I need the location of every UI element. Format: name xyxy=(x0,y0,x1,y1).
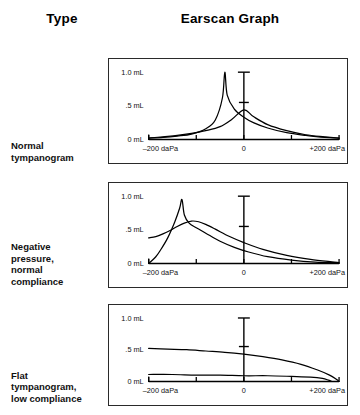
y-axis-tick-label: 0 mL xyxy=(127,135,143,144)
x-axis-tick-label: 0 xyxy=(242,144,246,153)
row-label-line: pressure, xyxy=(11,253,54,264)
row-label-line: tympanogram xyxy=(11,152,74,163)
tympanogram-row: Normaltympanogram 1.0 mL.5 mL0 mL–200 da… xyxy=(0,58,360,165)
y-axis-tick-label: 1.0 mL xyxy=(121,314,143,323)
column-header-graph: Earscan Graph xyxy=(140,11,320,26)
column-header-type: Type xyxy=(14,11,110,26)
x-axis-tick-label: –200 daPa xyxy=(143,268,179,277)
plot-area: 1.0 mL.5 mL0 mL–200 daPa0+200 daPa xyxy=(109,183,347,287)
normative-range-marker xyxy=(238,318,250,381)
tympanogram-curve xyxy=(149,374,332,381)
x-axis-tick-label: +200 daPa xyxy=(309,144,346,153)
graph-panel-normal: 1.0 mL.5 mL0 mL–200 daPa0+200 daPa xyxy=(108,58,348,164)
plot-area: 1.0 mL.5 mL0 mL–200 daPa0+200 daPa xyxy=(109,59,347,163)
graph-panel-flat: 1.0 mL.5 mL0 mL–200 daPa0+200 daPa xyxy=(108,304,348,406)
row-label-line: normal xyxy=(11,264,43,275)
y-axis-tick-label: 0 mL xyxy=(127,259,143,268)
y-axis-tick-label: .5 mL xyxy=(125,101,143,110)
plot-area: 1.0 mL.5 mL0 mL–200 daPa0+200 daPa xyxy=(109,305,347,405)
row-label-line: Normal xyxy=(11,140,44,151)
row-label-negative-pressure: Negativepressure,normalcompliance xyxy=(11,241,106,287)
normative-range-marker xyxy=(238,196,250,263)
y-axis-tick-label: .5 mL xyxy=(125,345,143,354)
y-axis-tick-label: 1.0 mL xyxy=(121,192,143,201)
x-axis-tick-label: –200 daPa xyxy=(143,386,179,395)
tympanogram-row: Negativepressure,normalcompliance 1.0 mL… xyxy=(0,182,360,289)
y-axis-tick-label: 1.0 mL xyxy=(121,68,143,77)
normative-range-marker xyxy=(238,72,250,139)
x-axis-tick-label: –200 daPa xyxy=(143,144,179,153)
y-axis-tick-label: 0 mL xyxy=(127,377,143,386)
y-axis-tick-label: .5 mL xyxy=(125,225,143,234)
row-label-line: Flat xyxy=(11,370,28,381)
row-label-flat: Flattympanogram,low compliance xyxy=(11,370,106,404)
x-axis-tick-label: 0 xyxy=(242,386,246,395)
graph-panel-negative-pressure: 1.0 mL.5 mL0 mL–200 daPa0+200 daPa xyxy=(108,182,348,288)
x-axis-tick-label: 0 xyxy=(242,268,246,277)
x-axis-tick-label: +200 daPa xyxy=(309,386,346,395)
row-label-line: Negative xyxy=(11,241,51,252)
page-header: Type Earscan Graph xyxy=(0,0,360,46)
tympanogram-row: Flattympanogram,low compliance 1.0 mL.5 … xyxy=(0,304,360,408)
row-label-line: low compliance xyxy=(11,393,82,404)
x-axis-tick-label: +200 daPa xyxy=(309,268,346,277)
row-label-line: tympanogram, xyxy=(11,381,76,392)
row-label-normal: Normaltympanogram xyxy=(11,140,106,163)
row-label-line: compliance xyxy=(11,276,63,287)
